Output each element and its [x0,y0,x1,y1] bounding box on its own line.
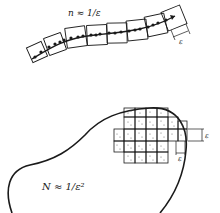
label-n-approx: n ≈ 1/ε [68,8,101,18]
region-blob [8,108,186,213]
curve-line [32,15,175,59]
epsilon-dimension-vertical [176,141,185,155]
diagram-canvas: ε n ≈ 1/ε [0,0,220,213]
epsilon-label-top: ε [179,38,183,46]
grid-stipple [117,111,183,161]
epsilon-dimension-horizontal [188,129,204,141]
label-N-approx: N ≈ 1/ε² [41,181,85,192]
epsilon-label-horizontal: ε [205,132,209,140]
epsilon-label-vertical: ε [178,155,182,163]
